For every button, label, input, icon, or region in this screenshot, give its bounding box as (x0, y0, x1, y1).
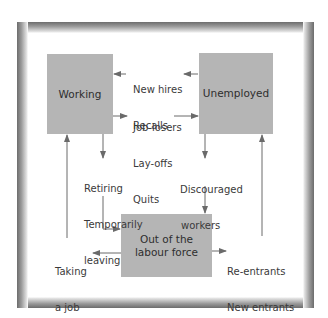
flow-label-retiring-line2: Temporarily (84, 219, 143, 231)
flow-label-retiring: Retiring Temporarily leaving (84, 159, 143, 279)
flow-label-reentrants: Re-entrants New entrants (227, 242, 294, 318)
flow-label-discouraged: Discouraged workers (180, 160, 243, 244)
flow-label-new-hires-line1: New hires (133, 84, 182, 96)
flow-label-discouraged-line1: Discouraged (180, 184, 243, 196)
flow-label-reentrants-line1: Re-entrants (227, 266, 294, 278)
flow-label-taking-job-line1: Taking (55, 266, 87, 278)
flow-label-reentrants-line2: New entrants (227, 302, 294, 314)
flow-label-retiring-line3: leaving (84, 255, 143, 267)
flow-label-job-losers-line1: Job-losers (133, 122, 182, 134)
flow-label-taking-job-line2: a job (55, 302, 87, 314)
flow-label-retiring-line1: Retiring (84, 183, 143, 195)
flow-label-discouraged-line2: workers (180, 220, 243, 232)
flow-label-taking-job: Taking a job (55, 242, 87, 318)
